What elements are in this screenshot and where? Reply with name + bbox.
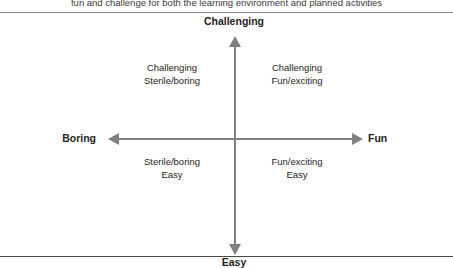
quadrant-top-right-line2: Fun/exciting	[243, 74, 351, 87]
quadrant-bottom-right-line2: Easy	[243, 168, 351, 181]
horizontal-axis-line	[115, 138, 355, 140]
quadrant-label-bottom-right: Fun/exciting Easy	[243, 155, 351, 181]
quadrant-diagram: Challenging Easy Boring Fun Challenging …	[0, 13, 453, 256]
quadrant-label-top-right: Challenging Fun/exciting	[243, 61, 351, 87]
axis-label-bottom-easy: Easy	[0, 256, 453, 268]
figure-caption: fun and challenge for both the learning …	[0, 0, 453, 9]
arrow-up-icon	[229, 36, 241, 47]
axis-label-right-fun: Fun	[368, 132, 387, 144]
quadrant-bottom-right-line1: Fun/exciting	[271, 156, 322, 167]
quadrant-label-top-left: Challenging Sterile/boring	[118, 61, 226, 87]
bottom-divider-rule	[0, 256, 453, 257]
axis-label-left-boring: Boring	[62, 132, 96, 144]
quadrant-top-left-line1: Challenging	[147, 62, 197, 73]
quadrant-top-left-line2: Sterile/boring	[118, 74, 226, 87]
axis-label-top-challenging: Challenging	[0, 15, 453, 27]
vertical-axis-line	[234, 43, 236, 248]
arrow-left-icon	[108, 133, 119, 145]
arrow-right-icon	[352, 133, 363, 145]
quadrant-top-right-line1: Challenging	[272, 62, 322, 73]
arrow-down-icon	[229, 244, 241, 255]
quadrant-bottom-left-line1: Sterile/boring	[144, 156, 200, 167]
quadrant-label-bottom-left: Sterile/boring Easy	[118, 155, 226, 181]
quadrant-bottom-left-line2: Easy	[118, 168, 226, 181]
